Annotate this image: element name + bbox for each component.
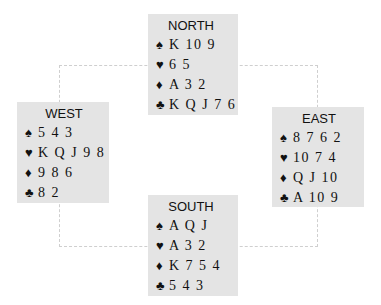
cards: 8 7 6 2: [293, 130, 342, 145]
suit-row-hearts: ♥K Q J 9 8: [25, 143, 103, 163]
cards: 5 4 3: [169, 278, 205, 293]
heart-icon: ♥: [156, 236, 169, 256]
diamond-icon: ♦: [25, 163, 38, 183]
cards: Q J 10: [293, 170, 339, 185]
diamond-icon: ♦: [156, 256, 169, 276]
heart-icon: ♥: [25, 143, 38, 163]
hand-east: EAST ♠8 7 6 2 ♥10 7 4 ♦Q J 10 ♣A 10 9: [272, 107, 364, 207]
cards: 6 5: [169, 57, 191, 72]
cards: 8 2: [38, 185, 60, 200]
club-icon: ♣: [25, 183, 38, 203]
cards: K Q J 7 6: [169, 97, 236, 112]
suit-row-diamonds: ♦Q J 10: [280, 168, 358, 188]
seat-label-south: SOUTH: [156, 199, 232, 215]
cards: 9 8 6: [38, 165, 74, 180]
suit-row-clubs: ♣5 4 3: [156, 276, 232, 296]
hand-west: WEST ♠5 4 3 ♥K Q J 9 8 ♦9 8 6 ♣8 2: [17, 102, 109, 203]
club-icon: ♣: [280, 188, 293, 208]
cards: A 10 9: [293, 190, 339, 205]
suit-row-spades: ♠A Q J: [156, 216, 232, 236]
cards: K 10 9: [169, 37, 216, 52]
heart-icon: ♥: [280, 148, 293, 168]
cards: K 7 5 4: [169, 258, 221, 273]
cards: A Q J: [169, 218, 208, 233]
diamond-icon: ♦: [280, 168, 293, 188]
suit-row-diamonds: ♦9 8 6: [25, 163, 103, 183]
cards: 10 7 4: [293, 150, 337, 165]
spade-icon: ♠: [156, 216, 169, 236]
spade-icon: ♠: [280, 128, 293, 148]
suit-row-clubs: ♣8 2: [25, 183, 103, 203]
suit-row-hearts: ♥10 7 4: [280, 148, 358, 168]
suit-row-spades: ♠8 7 6 2: [280, 128, 358, 148]
cards: A 3 2: [169, 238, 207, 253]
suit-row-spades: ♠5 4 3: [25, 123, 103, 143]
spade-icon: ♠: [25, 123, 38, 143]
cards: A 3 2: [169, 77, 207, 92]
suit-row-clubs: ♣A 10 9: [280, 188, 358, 208]
hand-north: NORTH ♠K 10 9 ♥6 5 ♦A 3 2 ♣K Q J 7 6: [148, 14, 238, 115]
club-icon: ♣: [156, 276, 169, 296]
suit-row-diamonds: ♦K 7 5 4: [156, 256, 232, 276]
cards: K Q J 9 8: [38, 145, 105, 160]
seat-label-west: WEST: [25, 106, 103, 122]
seat-label-east: EAST: [280, 111, 358, 127]
suit-row-clubs: ♣K Q J 7 6: [156, 95, 232, 115]
suit-row-hearts: ♥A 3 2: [156, 236, 232, 256]
club-icon: ♣: [156, 95, 169, 115]
hand-south: SOUTH ♠A Q J ♥A 3 2 ♦K 7 5 4 ♣5 4 3: [148, 195, 238, 296]
cards: 5 4 3: [38, 125, 74, 140]
suit-row-spades: ♠K 10 9: [156, 35, 232, 55]
heart-icon: ♥: [156, 55, 169, 75]
suit-row-hearts: ♥6 5: [156, 55, 232, 75]
suit-row-diamonds: ♦A 3 2: [156, 75, 232, 95]
diamond-icon: ♦: [156, 75, 169, 95]
spade-icon: ♠: [156, 35, 169, 55]
seat-label-north: NORTH: [156, 18, 232, 34]
